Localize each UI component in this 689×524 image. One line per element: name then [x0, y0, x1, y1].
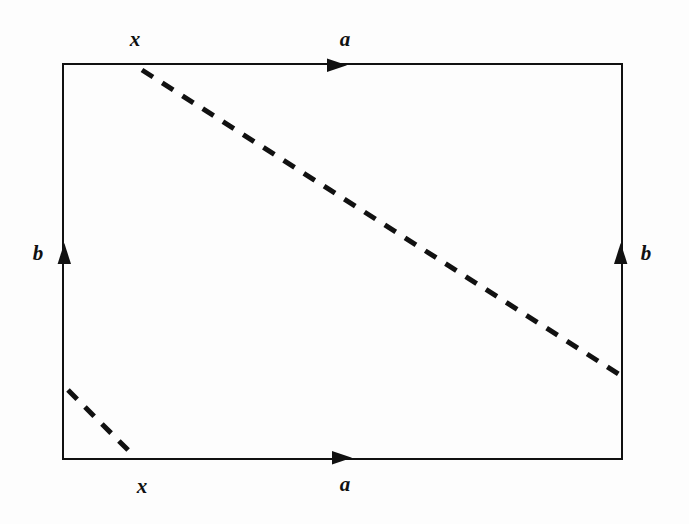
label-x-top: x	[130, 29, 141, 50]
bottom-edge-arrow-icon	[332, 451, 352, 464]
label-b-right: b	[641, 243, 652, 264]
main-diagonal-dashed-line	[142, 70, 620, 375]
label-b-left: b	[33, 243, 44, 264]
diagram-svg	[0, 0, 689, 524]
fundamental-polygon-rect	[63, 64, 622, 459]
top-edge-arrow-icon	[327, 59, 347, 73]
left-edge-arrow-icon	[58, 243, 71, 264]
right-edge-arrow-icon	[614, 243, 627, 264]
short-corner-dashed-line	[68, 390, 130, 452]
label-x-bottom: x	[137, 476, 148, 497]
label-a-top: a	[340, 29, 351, 50]
figure-canvas: x a b b x a	[0, 0, 689, 524]
label-a-bottom: a	[340, 474, 351, 495]
